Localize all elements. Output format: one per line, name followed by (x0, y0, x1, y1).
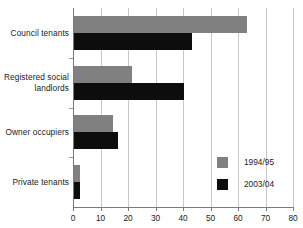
x-tick-label: 40 (168, 213, 198, 223)
x-tick-mark (183, 207, 184, 211)
legend: 1994/95 2003/04 (217, 156, 274, 200)
x-tick-mark (128, 207, 129, 211)
gridline (293, 8, 294, 207)
y-category-tick (69, 157, 73, 158)
category-label: Owner occupiers (0, 127, 69, 138)
y-category-tick (69, 108, 73, 109)
x-tick-mark (156, 207, 157, 211)
bar-chart: 01020304050607080 Council tenantsRegiste… (0, 0, 303, 228)
x-tick-label: 80 (278, 213, 303, 223)
x-tick-label: 50 (196, 213, 226, 223)
x-tick-mark (211, 207, 212, 211)
category-label: Private tenants (0, 177, 69, 188)
x-tick-mark (293, 207, 294, 211)
x-tick-label: 0 (58, 213, 88, 223)
legend-label: 2003/04 (244, 179, 274, 189)
legend-item: 1994/95 (217, 156, 274, 168)
bar-series-a (74, 115, 113, 132)
category-label-line: landlords (0, 83, 69, 94)
x-tick-label: 70 (251, 213, 281, 223)
gridline (211, 8, 212, 207)
bar-series-b (74, 182, 80, 199)
bar-series-a (74, 16, 247, 33)
x-tick-label: 20 (113, 213, 143, 223)
y-category-tick (69, 58, 73, 59)
category-label-line: Private tenants (0, 177, 69, 188)
category-label: Council tenants (0, 28, 69, 39)
category-label: Registered sociallandlords (0, 72, 69, 93)
legend-swatch-icon (217, 157, 228, 168)
x-tick-label: 30 (141, 213, 171, 223)
bar-series-b (74, 83, 184, 100)
category-label-line: Council tenants (0, 28, 69, 39)
legend-label: 1994/95 (244, 157, 274, 167)
x-tick-mark (101, 207, 102, 211)
x-tick-mark (73, 207, 74, 211)
bar-series-a (74, 165, 80, 182)
legend-item: 2003/04 (217, 178, 274, 190)
legend-swatch-icon (217, 179, 228, 190)
x-tick-label: 10 (86, 213, 116, 223)
bar-series-b (74, 132, 118, 149)
bar-series-a (74, 66, 132, 83)
x-tick-mark (266, 207, 267, 211)
x-tick-mark (238, 207, 239, 211)
x-tick-label: 60 (223, 213, 253, 223)
category-label-line: Registered social (0, 72, 69, 83)
bar-series-b (74, 33, 192, 50)
category-label-line: Owner occupiers (0, 127, 69, 138)
